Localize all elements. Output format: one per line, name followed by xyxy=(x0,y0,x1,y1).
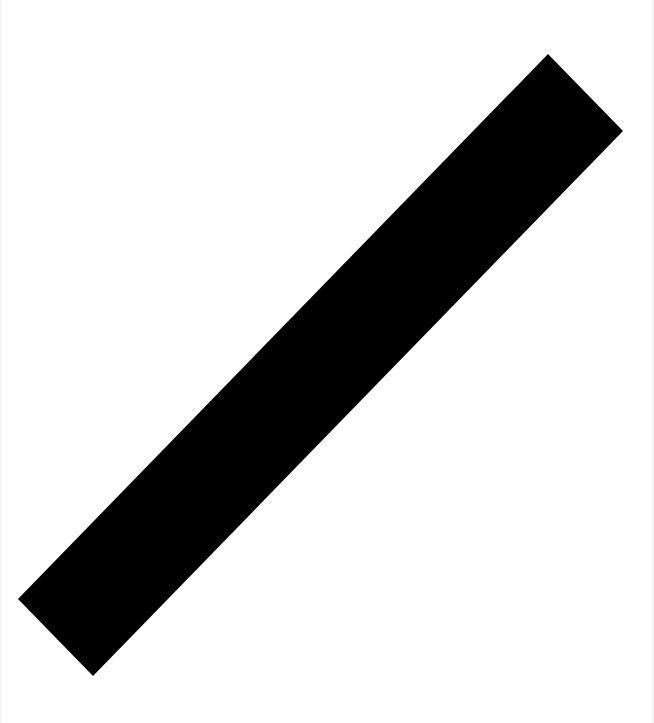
canvas xyxy=(0,0,654,723)
diagonal-bar-graphic xyxy=(0,0,654,723)
black-diagonal-bar xyxy=(18,54,623,676)
